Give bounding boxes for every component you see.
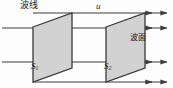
surface-1-subscript: 1 [36,65,39,71]
wavefront-plane-s1 [33,13,72,82]
wavefront-label: 波面 [130,33,139,43]
wave-line-label: 波线 [20,1,38,10]
figure-canvas: 波线 u 波面 S1 S2 [0,0,173,88]
velocity-label: u [96,2,101,11]
diagram-svg [0,0,173,88]
wavefront-plane-s2 [106,13,145,82]
surface-2-subscript: 2 [109,65,112,71]
surface-2-label: S2 [104,62,112,71]
surface-1-label: S1 [31,62,39,71]
